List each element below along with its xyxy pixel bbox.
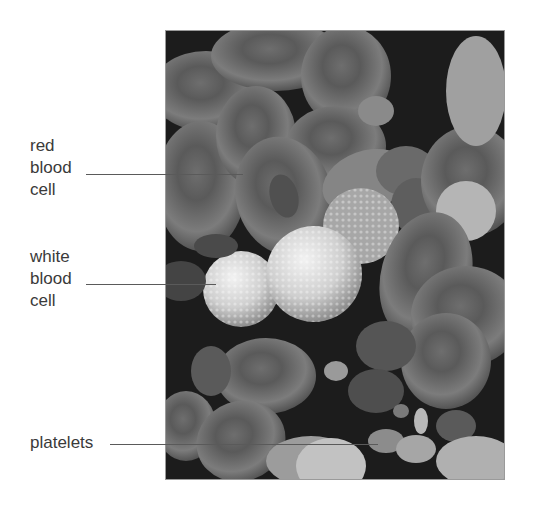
label-line: blood xyxy=(30,157,72,179)
label-line: blood xyxy=(30,268,72,290)
label-line: red xyxy=(30,135,72,157)
label-line: platelets xyxy=(30,432,93,454)
label-line: cell xyxy=(30,290,72,312)
label-line: white xyxy=(30,246,72,268)
leader-line-red-blood-cell xyxy=(86,174,243,175)
label-red-blood-cell: red blood cell xyxy=(30,135,72,201)
blood-cell-micrograph xyxy=(165,30,505,480)
label-white-blood-cell: white blood cell xyxy=(30,246,72,312)
leader-line-platelets xyxy=(110,444,378,445)
leader-line-white-blood-cell xyxy=(86,284,216,285)
label-line: cell xyxy=(30,179,72,201)
micrograph-illustration xyxy=(166,31,505,480)
label-platelets: platelets xyxy=(30,432,93,454)
